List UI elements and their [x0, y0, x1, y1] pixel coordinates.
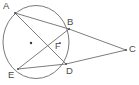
point-A-marker [14, 12, 16, 14]
point-label-A: A [3, 1, 9, 11]
chord-EB-line [18, 29, 69, 69]
point-label-D: D [66, 66, 73, 76]
point-C-marker [125, 49, 127, 51]
point-label-C: C [129, 44, 136, 54]
point-B-marker [68, 28, 70, 30]
geometry-figure: A B C D E F [0, 0, 139, 85]
point-label-E: E [8, 70, 14, 80]
secant-DC-line [66, 50, 126, 64]
center-dot [30, 42, 32, 44]
point-label-F: F [55, 41, 61, 51]
point-E-marker [17, 68, 19, 70]
secant-BC-line [69, 29, 126, 50]
point-label-B: B [67, 17, 73, 27]
